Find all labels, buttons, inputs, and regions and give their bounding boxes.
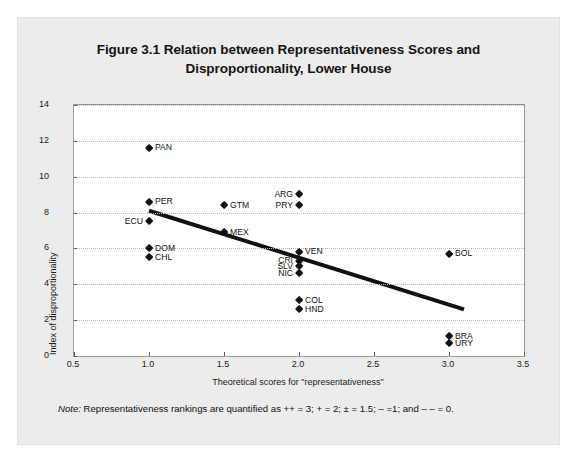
y-tick-label: 10 — [27, 171, 49, 181]
x-tick-mark — [74, 352, 75, 356]
y-axis-title: Index of disproportionality — [48, 252, 58, 355]
x-tick-label: 2.5 — [353, 359, 393, 369]
y-tick-mark — [74, 105, 77, 106]
data-point-label: BOL — [455, 248, 472, 259]
x-tick-label: 1.5 — [203, 359, 243, 369]
y-tick-mark — [74, 213, 77, 214]
y-tick-mark — [74, 177, 77, 178]
x-axis-title: Theoretical scores for "representativene… — [73, 377, 523, 387]
data-point-label: GTM — [230, 200, 249, 211]
x-tick-mark — [299, 352, 300, 356]
figure-card: Figure 3.1 Relation between Representati… — [18, 18, 559, 444]
y-tick-label: 2 — [27, 314, 49, 324]
data-point-label: MEX — [230, 227, 249, 238]
y-tick-label: 12 — [27, 135, 49, 145]
y-tick-mark — [74, 248, 77, 249]
figure-note-label: Note: — [58, 403, 81, 414]
y-tick-label: 8 — [27, 207, 49, 217]
y-tick-mark — [74, 356, 77, 357]
gridline-y — [74, 284, 524, 285]
x-tick-mark — [524, 352, 525, 356]
y-tick-mark — [74, 320, 77, 321]
figure-title: Figure 3.1 Relation between Representati… — [58, 40, 519, 78]
x-tick-label: 0.5 — [53, 359, 93, 369]
figure-note: Note: Representativeness rankings are qu… — [58, 403, 528, 414]
y-tick-label: 0 — [27, 350, 49, 360]
data-point-label: ECU — [125, 216, 143, 227]
y-tick-mark — [74, 284, 77, 285]
plot-frame: PANPERECUDOMCHLGTMMEXARGPRYVENCRISLVNICC… — [73, 104, 525, 357]
gridline-y — [74, 320, 524, 321]
gridline-y — [74, 141, 524, 142]
trendline — [74, 105, 524, 356]
data-point-label: PRY — [275, 200, 293, 211]
y-tick-label: 6 — [27, 242, 49, 252]
x-tick-label: 1.0 — [128, 359, 168, 369]
y-tick-label: 14 — [27, 99, 49, 109]
figure-title-line-2: Disproportionality, Lower House — [186, 61, 392, 76]
data-point-label: NIC — [278, 268, 293, 279]
figure-note-text: Representativeness rankings are quantifi… — [81, 403, 454, 414]
y-tick-label: 4 — [27, 278, 49, 288]
gridline-y — [74, 177, 524, 178]
data-point-label: PAN — [155, 142, 172, 153]
y-tick-mark — [74, 141, 77, 142]
x-tick-mark — [374, 352, 375, 356]
data-point-label: URY — [455, 338, 473, 349]
x-tick-label: 2.0 — [278, 359, 318, 369]
data-point-label: CHL — [155, 252, 172, 263]
x-tick-label: 3.5 — [503, 359, 543, 369]
x-tick-mark — [224, 352, 225, 356]
data-point-label: ARG — [274, 189, 293, 200]
figure-title-line-1: Figure 3.1 Relation between Representati… — [97, 42, 481, 57]
x-tick-label: 3.0 — [428, 359, 468, 369]
gridline-y — [74, 213, 524, 214]
x-tick-mark — [149, 352, 150, 356]
gridline-y — [74, 105, 524, 106]
data-point-label: VEN — [305, 246, 323, 257]
data-point-label: PER — [155, 196, 173, 207]
x-tick-mark — [449, 352, 450, 356]
plot-area: PANPERECUDOMCHLGTMMEXARGPRYVENCRISLVNICC… — [74, 105, 524, 356]
data-point-label: HND — [305, 304, 324, 315]
